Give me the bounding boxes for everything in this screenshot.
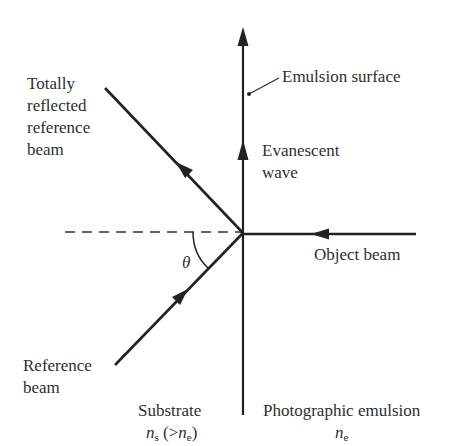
subscript-e: e <box>343 431 348 443</box>
label-line: wave <box>262 162 339 184</box>
label-line: Evanescent <box>262 140 339 162</box>
label-angle-theta: θ <box>182 252 190 274</box>
label-substrate: Substrate ns (>ne) <box>138 400 201 446</box>
interface-arrow-icon <box>238 27 249 46</box>
label-object-beam: Object beam <box>314 244 400 266</box>
label-line: beam <box>27 139 90 161</box>
label-line: Reference <box>23 355 92 377</box>
label-line: Totally <box>27 73 90 95</box>
relation-open: (> <box>159 423 179 442</box>
emulsion-index: ne <box>263 422 420 446</box>
emulsion-name: Photographic emulsion <box>263 400 420 422</box>
evanescent-arrow-icon <box>238 140 249 160</box>
label-totally-reflected: Totally reflected reference beam <box>27 73 90 161</box>
substrate-name: Substrate <box>138 400 201 422</box>
label-photographic-emulsion: Photographic emulsion ne <box>263 400 420 446</box>
reflected-beam-arrow-icon <box>176 162 193 178</box>
label-reference-beam: Reference beam <box>23 355 92 399</box>
emulsion-leader-line <box>249 78 279 94</box>
label-line: reflected <box>27 95 90 117</box>
relation-close: ) <box>192 423 198 442</box>
label-line: reference <box>27 117 90 139</box>
symbol-n: n <box>178 423 187 442</box>
emulsion-leader-dot <box>247 92 251 96</box>
reflected-beam-line <box>105 88 243 233</box>
label-evanescent-wave: Evanescent wave <box>262 140 339 184</box>
label-emulsion-surface: Emulsion surface <box>282 66 401 88</box>
object-beam-arrow-icon <box>311 229 329 240</box>
substrate-index: ns (>ne) <box>142 422 201 446</box>
angle-arc <box>193 232 208 268</box>
label-line: beam <box>23 377 92 399</box>
